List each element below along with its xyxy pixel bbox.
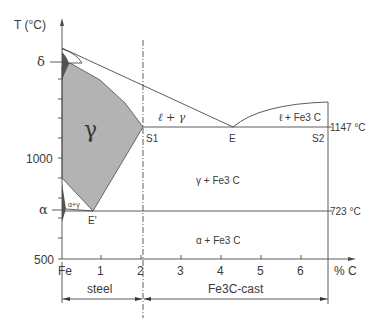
diagram-canvas: T (°C) δ 1000 α 500 Fe 1 2 3 4 5 6 % C γ…	[0, 0, 380, 336]
arrow-left-icon	[144, 297, 151, 301]
y-tick-1000: 1000	[26, 152, 53, 166]
eutectic-temp: 1147 °C	[330, 122, 366, 133]
point-s1: S1	[146, 133, 159, 144]
alpha-fe3c-label: α + Fe3 C	[196, 235, 240, 246]
x-tick-5: 5	[257, 264, 264, 278]
point-e: E	[229, 133, 236, 144]
arrow-right-icon	[320, 297, 327, 301]
eutectoid-temp: 723 °C	[330, 206, 361, 217]
x-tick-2: 2	[137, 264, 144, 278]
y-axis-arrow-icon	[60, 18, 64, 26]
alpha-gamma-label: α+γ	[68, 201, 80, 209]
y-tick-delta: δ	[37, 54, 45, 69]
liquid-fe3c-label: ℓ + Fe3 C	[279, 112, 321, 123]
gamma-label: γ	[84, 117, 97, 142]
point-s2: S2	[312, 133, 325, 144]
gamma-region	[62, 63, 143, 211]
phase-diagram: T (°C) δ 1000 α 500 Fe 1 2 3 4 5 6 % C γ…	[0, 0, 380, 336]
gamma-fe3c-label: γ + Fe3 C	[196, 175, 240, 186]
arrow-left-icon	[63, 297, 70, 301]
x-tick-6: 6	[297, 264, 304, 278]
y-axis-label: T (°C)	[14, 18, 46, 32]
x-tick-3: 3	[177, 264, 184, 278]
x-axis-label: % C	[334, 264, 357, 278]
x-tick-4: 4	[217, 264, 224, 278]
y-tick-500: 500	[34, 253, 54, 267]
x-axis-arrow-icon	[348, 257, 356, 261]
y-tick-alpha: α	[39, 202, 48, 217]
x-tick-fe: Fe	[58, 264, 72, 278]
liquid-gamma-label: ℓ + γ	[158, 111, 186, 124]
alpha-region	[62, 183, 66, 222]
x-tick-1: 1	[97, 264, 104, 278]
arrow-right-icon	[135, 297, 142, 301]
cast-range-label: Fe3C-cast	[208, 282, 264, 296]
steel-range-label: steel	[87, 282, 112, 296]
point-e-prime: E'	[88, 215, 97, 226]
